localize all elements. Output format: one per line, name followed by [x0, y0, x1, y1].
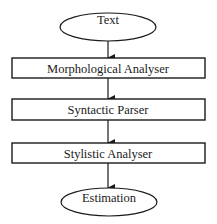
node-stylistic-analyser: Stylistic Analyser [12, 143, 205, 163]
node-text-label: Text [97, 13, 120, 27]
node-syntactic-parser-label: Syntactic Parser [68, 103, 150, 117]
node-estimation-label: Estimation [82, 191, 137, 205]
node-morphological-analyser-label: Morphological Analyser [47, 62, 170, 76]
flowchart: Text Morphological Analyser Syntactic Pa… [0, 0, 217, 224]
node-stylistic-analyser-label: Stylistic Analyser [64, 147, 153, 161]
node-syntactic-parser: Syntactic Parser [12, 99, 205, 120]
node-estimation: Estimation [61, 188, 157, 216]
node-morphological-analyser: Morphological Analyser [12, 58, 205, 78]
node-text: Text [60, 13, 156, 41]
